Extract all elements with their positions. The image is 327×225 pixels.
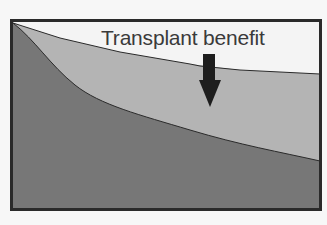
transplant-benefit-label: Transplant benefit: [101, 27, 265, 48]
